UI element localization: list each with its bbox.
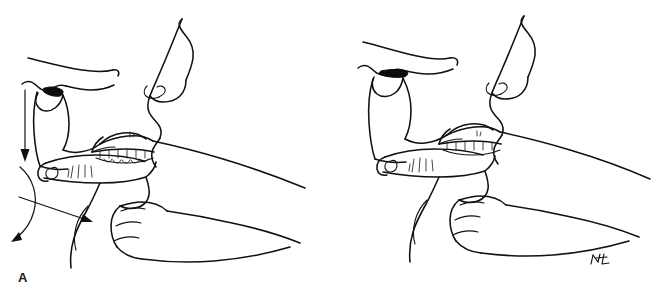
nasopharynx-group	[358, 42, 458, 74]
mandible-tongue-group	[38, 155, 156, 208]
soft-palate-group	[36, 87, 63, 111]
mandible-tongue-group	[377, 149, 495, 202]
panel-a-illustration	[0, 0, 328, 308]
nasopharynx-group	[22, 58, 119, 90]
artist-signature	[591, 254, 609, 264]
panel-a: A	[0, 0, 328, 308]
downward-arrow	[21, 90, 30, 162]
neck-contour-group	[71, 183, 100, 268]
motion-arrows-group	[11, 90, 93, 242]
panel-b-illustration	[328, 0, 656, 308]
operator-hand-group	[92, 133, 305, 262]
maxilla-teeth-group	[92, 132, 154, 163]
forward-arrow	[19, 197, 93, 222]
operator-hand-group	[439, 124, 650, 256]
curved-rotation-arrow	[11, 167, 35, 242]
panel-label-a: A	[18, 271, 28, 284]
panel-b: B	[328, 0, 656, 308]
figure-root: A	[0, 0, 656, 308]
neck-contour-group	[410, 177, 439, 262]
